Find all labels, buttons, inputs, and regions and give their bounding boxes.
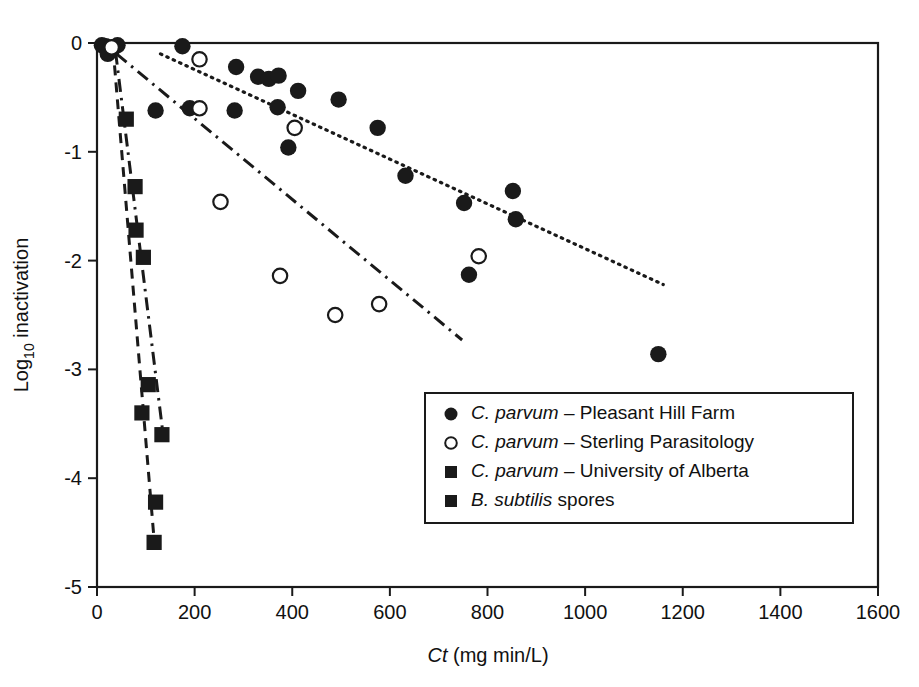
point-filled-square xyxy=(141,377,156,392)
legend-filled-circle-icon xyxy=(445,408,458,421)
point-open-circle xyxy=(273,269,287,283)
point-open-circle xyxy=(472,249,486,263)
point-filled-circle xyxy=(505,183,521,199)
point-filled-circle xyxy=(461,267,477,283)
chart-legend: C. parvum – Pleasant Hill FarmC. parvum … xyxy=(425,393,853,523)
point-filled-circle xyxy=(228,59,244,75)
point-filled-circle xyxy=(280,139,296,155)
scatter-plot: 020040060080010001200140016000-1-2-3-4-5… xyxy=(0,0,919,687)
point-filled-square xyxy=(136,250,151,265)
point-filled-circle xyxy=(330,91,346,107)
point-open-circle xyxy=(287,121,301,135)
point-filled-circle xyxy=(269,99,285,115)
point-open-circle xyxy=(213,195,227,209)
legend-item-2[interactable]: C. parvum – University of Alberta xyxy=(445,460,749,481)
point-open-circle xyxy=(104,40,118,54)
legend-item-label: C. parvum – Pleasant Hill Farm xyxy=(471,402,735,423)
point-filled-square xyxy=(147,535,162,550)
legend-filled-square-icon xyxy=(445,466,457,478)
legend-item-label: B. subtilis spores xyxy=(471,489,615,510)
point-open-circle xyxy=(192,52,206,66)
point-filled-circle xyxy=(456,195,472,211)
x-tick-label-600: 600 xyxy=(373,601,406,623)
x-tick-label-400: 400 xyxy=(276,601,309,623)
legend-item-label: C. parvum – University of Alberta xyxy=(471,460,749,481)
legend-open-circle-icon xyxy=(445,437,457,449)
point-filled-circle xyxy=(226,102,242,118)
point-filled-square xyxy=(148,495,163,510)
x-tick-label-0: 0 xyxy=(91,601,102,623)
point-filled-circle xyxy=(508,211,524,227)
point-open-circle xyxy=(328,308,342,322)
svg-text:Ct (mg min/L): Ct (mg min/L) xyxy=(427,644,548,666)
x-tick-label-1200: 1200 xyxy=(661,601,706,623)
chart-figure: 020040060080010001200140016000-1-2-3-4-5… xyxy=(0,0,919,687)
point-filled-circle xyxy=(397,168,413,184)
point-filled-square xyxy=(134,405,149,420)
point-filled-circle xyxy=(369,120,385,136)
x-tick-label-1000: 1000 xyxy=(563,601,608,623)
legend-filled-square-icon xyxy=(445,495,457,507)
point-filled-circle xyxy=(174,38,190,54)
y-tick-label--3: -3 xyxy=(64,358,82,380)
point-open-circle xyxy=(372,297,386,311)
point-filled-square xyxy=(119,112,134,127)
x-axis-title: Ct (mg min/L) xyxy=(427,644,548,666)
x-tick-label-200: 200 xyxy=(178,601,211,623)
point-filled-square xyxy=(154,427,169,442)
y-tick-label--5: -5 xyxy=(64,576,82,598)
x-tick-label-1400: 1400 xyxy=(758,601,803,623)
point-filled-square xyxy=(127,179,142,194)
point-open-circle xyxy=(192,101,206,115)
x-tick-label-800: 800 xyxy=(471,601,504,623)
point-filled-square xyxy=(128,223,143,238)
legend-item-1[interactable]: C. parvum – Sterling Parasitology xyxy=(445,431,754,452)
x-tick-label-1600: 1600 xyxy=(856,601,901,623)
point-filled-circle xyxy=(147,102,163,118)
y-tick-label--1: -1 xyxy=(64,141,82,163)
point-filled-circle xyxy=(650,346,666,362)
legend-item-label: C. parvum – Sterling Parasitology xyxy=(471,431,755,452)
legend-item-3[interactable]: B. subtilis spores xyxy=(445,489,615,510)
y-tick-label--2: -2 xyxy=(64,250,82,272)
point-filled-circle xyxy=(270,67,286,83)
y-tick-label--4: -4 xyxy=(64,467,82,489)
point-filled-circle xyxy=(290,83,306,99)
legend-item-0[interactable]: C. parvum – Pleasant Hill Farm xyxy=(445,402,735,423)
y-tick-label-0: 0 xyxy=(71,32,82,54)
